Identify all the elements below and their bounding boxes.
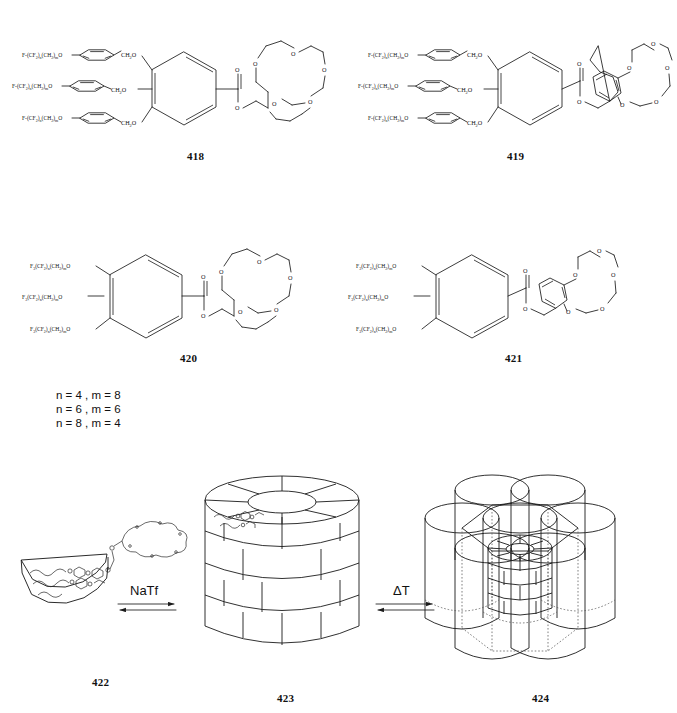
assembly-hexagonal-array-424 bbox=[425, 475, 615, 659]
structure-419-arm-2: F-(CF2)n(CH2)mO CH2O bbox=[358, 81, 473, 95]
structure-418: F-(CF2)n(CH2)mO CH2O F-(CF2)n(CH2)mO CH2… bbox=[12, 41, 327, 128]
structure-420: F3(CF2)n(CH2)mO F3(CF2)n(CH2)mO F3(CF2)n… bbox=[22, 249, 293, 338]
crown-oxygen-420-3: O bbox=[288, 274, 293, 281]
chain-legend-line-2: n = 6 , m = 6 bbox=[56, 402, 121, 417]
arm-label-419-2: F-(CF2)n(CH2)mO bbox=[358, 83, 398, 91]
crown-oxygen-420-1: O bbox=[219, 268, 224, 275]
structure-419-benzo-crown-ether: O O O O O bbox=[590, 40, 672, 108]
reaction-arrow-natf bbox=[118, 604, 176, 610]
structure-419-arm-3: F-(CF2)n(CH2)mO CH2O bbox=[368, 113, 483, 128]
structure-418-arm-2: F-(CF2)n(CH2)mO CH2O bbox=[12, 81, 127, 95]
structure-418-arm-3: F-(CF2)n(CH2)mO CH2O bbox=[22, 113, 137, 128]
structure-421-ester: O O bbox=[508, 267, 556, 315]
arm-label-418-1: F-(CF2)n(CH2)mO bbox=[22, 52, 62, 60]
compound-number-423: 423 bbox=[277, 692, 294, 704]
linker-418-1: CH2O bbox=[121, 51, 137, 60]
structure-421-core-ring bbox=[436, 255, 508, 338]
wedge-molecule-sketch bbox=[30, 567, 110, 597]
array-inner-column bbox=[488, 535, 552, 615]
arm-label-420-1: F3(CF2)n(CH2)mO bbox=[30, 263, 70, 271]
structure-419: F-(CF2)n(CH2)mO CH2O F-(CF2)n(CH2)mO CH2… bbox=[358, 40, 672, 128]
carbonyl-oxygen-420: O bbox=[201, 273, 206, 280]
crown-oxygen-420-5: O bbox=[238, 308, 243, 315]
structure-421-arm-3: F3(CF2)n(CH2)mO bbox=[356, 318, 436, 334]
crown-oxygen-420-2: O bbox=[257, 258, 262, 265]
ester-oxygen-421: O bbox=[523, 305, 528, 312]
structure-420-arm-3: F3(CF2)n(CH2)mO bbox=[30, 318, 110, 334]
arm-label-418-3: F-(CF2)n(CH2)mO bbox=[22, 115, 62, 123]
linker-419-1: CH2O bbox=[467, 51, 483, 60]
arm-label-419-1: F-(CF2)n(CH2)mO bbox=[368, 52, 408, 60]
chain-legend-line-3: n = 8 , m = 4 bbox=[56, 416, 121, 431]
compound-number-418: 418 bbox=[187, 150, 204, 162]
arm-label-421-3: F3(CF2)n(CH2)mO bbox=[356, 326, 396, 334]
crown-oxygen-419-4: O bbox=[654, 98, 659, 105]
arm-label-421-1: F3(CF2)n(CH2)mO bbox=[356, 263, 396, 271]
carbonyl-oxygen-419: O bbox=[577, 60, 582, 67]
crown-oxygen-420-4: O bbox=[274, 306, 279, 313]
arm-label-420-3: F3(CF2)n(CH2)mO bbox=[30, 326, 70, 334]
linker-418-2: CH2O bbox=[111, 86, 127, 95]
crown-oxygen-419-2: O bbox=[651, 40, 656, 47]
structure-420-crown-ether: O O O O O bbox=[219, 249, 293, 329]
structure-421-benzo-crown-ether: O O O O O bbox=[539, 247, 618, 315]
crown-oxygen-421-2: O bbox=[597, 247, 602, 254]
structure-418-ester: O O bbox=[216, 66, 268, 111]
crown-oxygen-421-4: O bbox=[600, 305, 605, 312]
crown-oxygen-418-1: O bbox=[253, 60, 258, 67]
arm-label-421-2: F3(CF2)n(CH2)mO bbox=[348, 294, 388, 302]
ester-oxygen-420: O bbox=[201, 312, 206, 319]
structure-420-ester: O O bbox=[182, 273, 234, 319]
crown-oxygen-421-3: O bbox=[611, 271, 616, 278]
assembly-column-423 bbox=[205, 476, 359, 645]
structure-420-arm-1: F3(CF2)n(CH2)mO bbox=[30, 263, 110, 275]
structure-420-core-ring bbox=[110, 255, 182, 338]
structure-418-arm-1: F-(CF2)n(CH2)mO CH2O bbox=[22, 50, 137, 60]
ester-oxygen-418: O bbox=[235, 104, 240, 111]
crown-oxygen-418-2: O bbox=[291, 50, 296, 57]
arm-label-418-2: F-(CF2)n(CH2)mO bbox=[12, 83, 52, 91]
chain-legend-line-1: n = 4 , m = 8 bbox=[56, 388, 121, 403]
linker-418-3: CH2O bbox=[121, 119, 137, 128]
structure-418-core-ring bbox=[138, 52, 216, 125]
crown-oxygen-418-5: O bbox=[272, 100, 277, 107]
structure-421-arm-1: F3(CF2)n(CH2)mO bbox=[356, 263, 436, 275]
compound-number-424: 424 bbox=[532, 692, 549, 704]
linker-419-3: CH2O bbox=[467, 119, 483, 128]
compound-number-422: 422 bbox=[92, 676, 109, 688]
crown-oxygen-418-4: O bbox=[308, 98, 313, 105]
structure-418-crown-ether: O O O O O bbox=[253, 41, 327, 121]
arm-label-420-2: F3(CF2)n(CH2)mO bbox=[22, 294, 62, 302]
structure-421: F3(CF2)n(CH2)mO F3(CF2)n(CH2)mO F3(CF2)n… bbox=[348, 247, 618, 338]
crown-oxygen-421-5: O bbox=[566, 308, 571, 315]
compound-number-420: 420 bbox=[180, 352, 197, 364]
carbonyl-oxygen-421: O bbox=[523, 267, 528, 274]
crown-oxygen-418-3: O bbox=[322, 66, 327, 73]
structure-419-core-ring bbox=[484, 52, 562, 125]
carbonyl-oxygen-418: O bbox=[235, 66, 240, 73]
arm-label-419-3: F-(CF2)n(CH2)mO bbox=[368, 115, 408, 123]
chemical-figure: F-(CF2)n(CH2)mO CH2O F-(CF2)n(CH2)mO CH2… bbox=[0, 0, 677, 713]
arrow-label-natf: NaTf bbox=[130, 583, 158, 598]
assembly-wedge-422 bbox=[21, 521, 187, 605]
crown-oxygen-419-3: O bbox=[665, 64, 670, 71]
structure-420-arm-2: F3(CF2)n(CH2)mO bbox=[22, 294, 104, 302]
crown-oxygen-419-5: O bbox=[620, 101, 625, 108]
figure-canvas: F-(CF2)n(CH2)mO CH2O F-(CF2)n(CH2)mO CH2… bbox=[0, 0, 677, 713]
linker-419-2: CH2O bbox=[457, 86, 473, 95]
crown-oxygen-419-1: O bbox=[627, 64, 632, 71]
wedge-crown-head bbox=[110, 521, 187, 569]
crown-oxygen-421-1: O bbox=[573, 271, 578, 278]
compound-number-419: 419 bbox=[507, 150, 524, 162]
arrow-label-delta-t: ΔT bbox=[393, 583, 410, 598]
compound-number-421: 421 bbox=[505, 352, 522, 364]
ester-oxygen-419: O bbox=[577, 98, 582, 105]
structure-419-arm-1: F-(CF2)n(CH2)mO CH2O bbox=[368, 50, 483, 60]
structure-421-arm-2: F3(CF2)n(CH2)mO bbox=[348, 294, 430, 302]
